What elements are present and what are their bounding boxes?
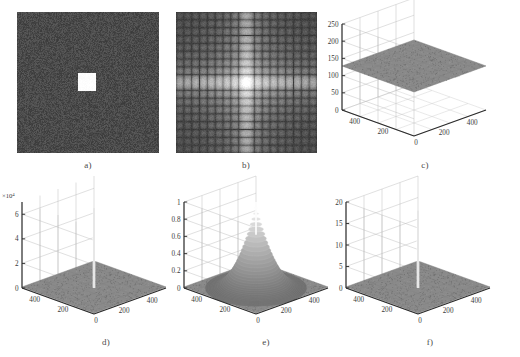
svg-text:0: 0 <box>177 285 181 293</box>
svg-text:200: 200 <box>281 307 292 315</box>
svg-text:400: 400 <box>349 118 360 126</box>
panel-f-surface-plot: 051015200200400200400 <box>334 198 520 338</box>
svg-text:×104: ×104 <box>2 192 15 199</box>
svg-text:400: 400 <box>309 297 320 305</box>
svg-text:4: 4 <box>15 235 19 243</box>
svg-text:0: 0 <box>414 139 418 147</box>
svg-text:250: 250 <box>328 21 339 29</box>
svg-text:100: 100 <box>328 72 339 80</box>
svg-text:0: 0 <box>15 285 19 293</box>
svg-text:0: 0 <box>418 317 422 325</box>
panel-e-caption: e) <box>246 337 286 347</box>
svg-text:400: 400 <box>467 119 478 127</box>
svg-text:1: 1 <box>177 199 181 207</box>
panel-c-surface-plot: 0501001502002500200400200400 <box>330 20 520 160</box>
svg-text:400: 400 <box>191 296 202 304</box>
svg-text:200: 200 <box>219 306 230 314</box>
svg-text:0.8: 0.8 <box>172 216 181 224</box>
panel-f-caption: f) <box>410 337 450 347</box>
svg-text:200: 200 <box>381 306 392 314</box>
panel-c-caption: c) <box>405 160 445 170</box>
svg-text:6: 6 <box>15 211 19 219</box>
svg-text:200: 200 <box>439 129 450 137</box>
svg-text:20: 20 <box>335 199 343 207</box>
panel-b-caption: b) <box>226 160 266 170</box>
svg-text:0.2: 0.2 <box>172 267 181 275</box>
svg-text:400: 400 <box>471 297 482 305</box>
svg-text:200: 200 <box>377 128 388 136</box>
svg-text:0.6: 0.6 <box>172 233 181 241</box>
svg-text:2: 2 <box>15 260 19 268</box>
svg-text:400: 400 <box>353 296 364 304</box>
svg-text:200: 200 <box>119 307 130 315</box>
panel-b-image <box>176 12 317 153</box>
svg-text:200: 200 <box>57 306 68 314</box>
panel-a-image <box>17 12 159 153</box>
svg-text:400: 400 <box>147 297 158 305</box>
svg-text:10: 10 <box>335 242 343 250</box>
figure-canvas: a) b) 0501001502002500200400200400 c) 02… <box>0 0 520 357</box>
svg-text:15: 15 <box>335 220 343 228</box>
svg-text:50: 50 <box>331 89 339 97</box>
svg-text:0: 0 <box>339 285 343 293</box>
panel-d-caption: d) <box>86 337 126 347</box>
svg-text:0: 0 <box>94 317 98 325</box>
svg-text:200: 200 <box>328 38 339 46</box>
svg-text:0.4: 0.4 <box>172 250 181 258</box>
svg-text:0: 0 <box>335 107 339 115</box>
svg-text:150: 150 <box>328 55 339 63</box>
svg-text:0: 0 <box>256 317 260 325</box>
svg-text:200: 200 <box>443 307 454 315</box>
svg-text:400: 400 <box>29 296 40 304</box>
panel-a-caption: a) <box>68 160 108 170</box>
svg-text:5: 5 <box>339 263 343 271</box>
